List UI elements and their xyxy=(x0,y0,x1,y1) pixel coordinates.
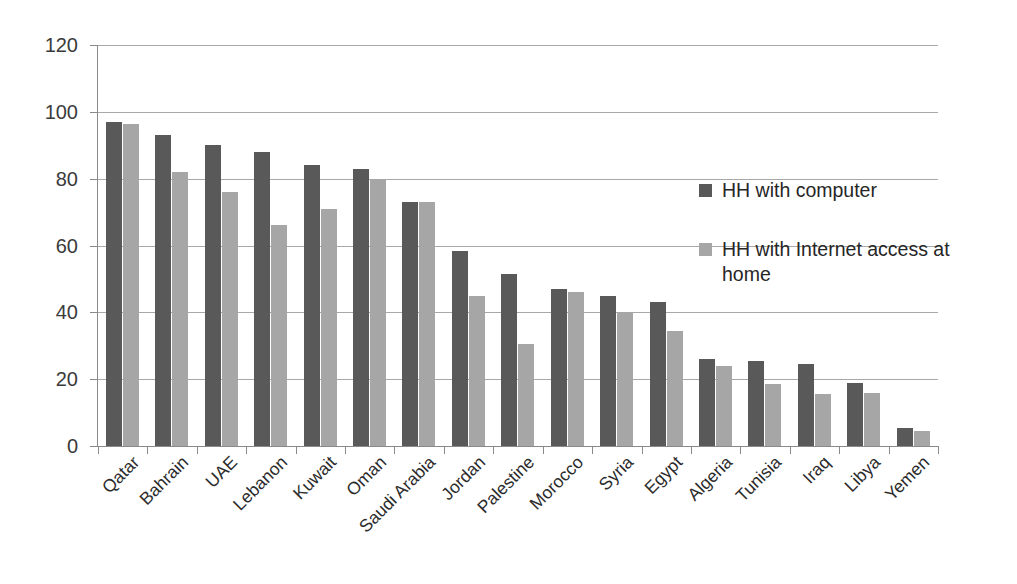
bar xyxy=(650,302,666,446)
bar xyxy=(667,331,683,446)
bar xyxy=(897,428,913,446)
bar-group xyxy=(444,45,493,446)
bar xyxy=(304,165,320,446)
legend-label-internet: HH with Internet access at home xyxy=(722,237,972,287)
x-axis-label: Algeria xyxy=(683,452,736,505)
bar xyxy=(847,383,863,446)
x-axis-label: Tunisia xyxy=(732,452,786,506)
bar xyxy=(172,172,188,446)
bar-group xyxy=(197,45,246,446)
bar-group xyxy=(345,45,394,446)
bar xyxy=(155,135,171,446)
bar-group xyxy=(642,45,691,446)
bar xyxy=(469,296,485,446)
bar xyxy=(568,292,584,446)
bar-group xyxy=(98,45,147,446)
x-axis-label: Qatar xyxy=(98,452,144,498)
x-axis-label: Libya xyxy=(840,452,884,496)
bar xyxy=(518,344,534,446)
bar-group xyxy=(296,45,345,446)
legend-swatch-computer xyxy=(699,184,712,197)
y-tick-label: 60 xyxy=(34,234,78,257)
y-tick-label: 40 xyxy=(34,301,78,324)
bar xyxy=(914,431,930,446)
bar xyxy=(501,274,517,446)
y-tick-label: 20 xyxy=(34,368,78,391)
bar xyxy=(353,169,369,446)
x-axis-label: Lebanon xyxy=(229,452,292,515)
x-axis-label: Bahrain xyxy=(135,452,193,510)
x-axis-labels: QatarBahrainUAELebanonKuwaitOmanSaudi Ar… xyxy=(0,452,1017,572)
bar xyxy=(254,152,270,446)
legend-label-computer: HH with computer xyxy=(722,178,877,203)
bar-group xyxy=(246,45,295,446)
x-axis-label: UAE xyxy=(202,452,242,492)
x-axis-label: Syria xyxy=(595,452,638,495)
x-axis-label: Iraq xyxy=(799,452,835,488)
legend-item-computer: HH with computer xyxy=(699,178,999,203)
bar xyxy=(815,394,831,446)
bar xyxy=(321,209,337,446)
bar xyxy=(864,393,880,446)
bar xyxy=(748,361,764,446)
bar xyxy=(716,366,732,446)
y-tick-label: 100 xyxy=(34,100,78,123)
x-axis-label: Kuwait xyxy=(289,452,341,504)
bar xyxy=(370,179,386,446)
y-tick-label: 80 xyxy=(34,167,78,190)
bar xyxy=(600,296,616,446)
bar xyxy=(402,202,418,446)
bar xyxy=(617,312,633,446)
bar xyxy=(551,289,567,446)
chart-legend: HH with computer HH with Internet access… xyxy=(699,178,999,321)
bar-group xyxy=(543,45,592,446)
bar xyxy=(222,192,238,446)
bar xyxy=(765,384,781,446)
bar xyxy=(452,251,468,446)
x-axis-label: Morocco xyxy=(526,452,588,514)
bar xyxy=(699,359,715,446)
bar xyxy=(271,225,287,446)
bar-group xyxy=(592,45,641,446)
legend-swatch-internet xyxy=(699,243,712,256)
y-tick-label: 120 xyxy=(34,34,78,57)
x-axis-line xyxy=(97,446,939,447)
bar-group xyxy=(147,45,196,446)
bar-chart: 020406080100120 QatarBahrainUAELebanonKu… xyxy=(0,0,1017,584)
bar-group xyxy=(493,45,542,446)
x-axis-label: Yemen xyxy=(881,452,934,505)
bar xyxy=(123,124,139,446)
x-axis-label: Egypt xyxy=(641,452,687,498)
bar xyxy=(106,122,122,446)
bar xyxy=(205,145,221,446)
legend-item-internet: HH with Internet access at home xyxy=(699,237,999,287)
bar xyxy=(419,202,435,446)
bar-group xyxy=(394,45,443,446)
bar xyxy=(798,364,814,446)
